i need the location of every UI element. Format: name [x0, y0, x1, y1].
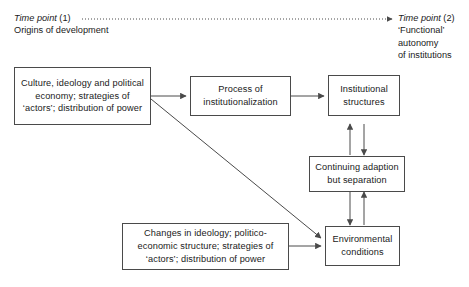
edge-origins-to-environment — [151, 99, 321, 238]
timeline-end-subtitle-line3: of institutions — [398, 49, 455, 61]
timeline-end-subtitle-line2: autonomy — [398, 37, 455, 49]
node-institutional-structures: Institutional structures — [328, 75, 400, 116]
node-origins-factors: Culture, ideology and political economy;… — [14, 67, 151, 125]
timeline-start-label: Time point (1) Origins of development — [14, 12, 108, 37]
timeline-start-subtitle: Origins of development — [14, 24, 108, 36]
timeline-end-number: (2) — [441, 13, 455, 23]
timeline-start-number: (1) — [57, 13, 71, 23]
institutional-development-diagram: Time point (1) Origins of development Ti… — [0, 0, 469, 287]
timeline-end-title: Time point — [398, 13, 441, 23]
node-changes-factors: Changes in ideology; politico-economic s… — [122, 223, 289, 270]
node-continuing-adaption: Continuing adaption but separation — [309, 156, 405, 192]
timeline-start-title: Time point — [14, 13, 57, 23]
timeline-end-label: Time point (2) ‘Functional’ autonomy of … — [398, 12, 455, 61]
timeline-end-subtitle-line1: ‘Functional’ — [398, 24, 455, 36]
node-environmental-conditions: Environmental conditions — [325, 226, 400, 266]
node-process-institutionalization: Process of institutionalization — [190, 76, 291, 116]
